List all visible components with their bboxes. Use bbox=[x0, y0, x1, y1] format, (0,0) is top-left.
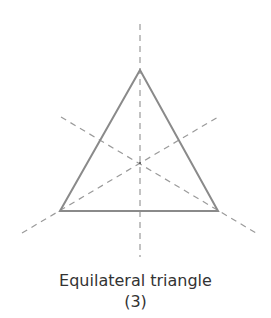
equilateral-triangle bbox=[60, 70, 218, 211]
centroid-dot bbox=[139, 162, 141, 164]
diagram-title: Equilateral triangle bbox=[0, 271, 271, 291]
symmetry-count: (3) bbox=[0, 292, 271, 312]
symmetry-line-descending bbox=[61, 117, 256, 233]
symmetry-line-ascending bbox=[22, 117, 218, 233]
